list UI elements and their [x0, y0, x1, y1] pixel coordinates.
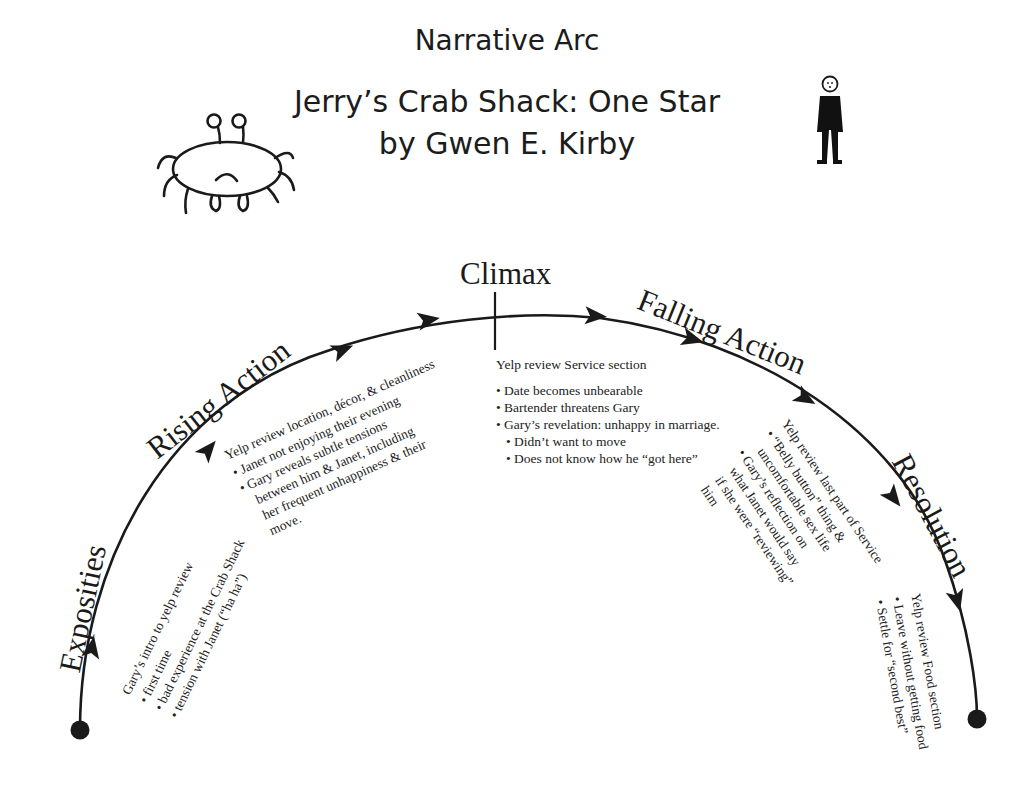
climax-bullet: Date becomes unbearable [496, 382, 720, 399]
arc-start-marker-icon [71, 721, 90, 740]
climax-bullet: Gary’s revelation: unhappy in marriage. [496, 416, 720, 433]
climax-bullet: Bartender threatens Gary [496, 399, 720, 416]
arrowhead-icon [195, 435, 223, 463]
climax-sub-bullet: Didn’t want to move [496, 433, 720, 450]
crab-icon [158, 115, 294, 214]
arc-end-marker-icon [968, 710, 987, 729]
climax-heading: Yelp review Service section [496, 356, 720, 373]
climax-notes: Yelp review Service section Date becomes… [496, 356, 720, 467]
stage-label-climax: Climax [460, 256, 551, 292]
person-icon [817, 77, 843, 165]
climax-sub-bullet: Does not know how he “got here” [496, 450, 720, 467]
arrowhead-icon [946, 588, 969, 614]
